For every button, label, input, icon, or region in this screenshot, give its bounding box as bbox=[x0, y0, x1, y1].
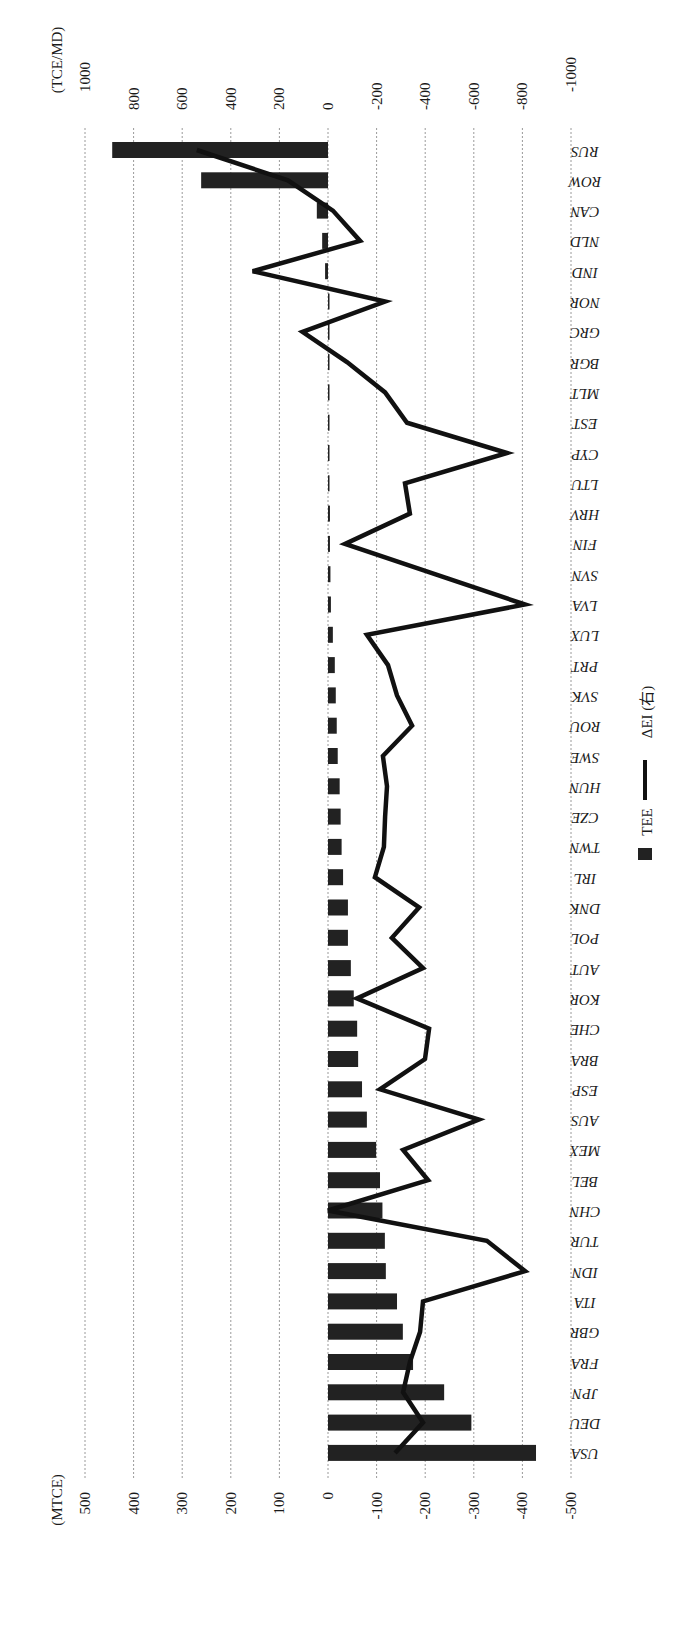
category-label: EST bbox=[571, 416, 599, 432]
tee-bar bbox=[328, 1324, 403, 1340]
tee-bar bbox=[328, 1445, 536, 1461]
category-label: CYP bbox=[571, 447, 599, 463]
tee-bar bbox=[328, 1021, 357, 1037]
tee-bar bbox=[328, 657, 335, 673]
category-label: RUS bbox=[571, 144, 600, 160]
chart-canvas: 5004003002001000-100-200-300-400-500 100… bbox=[0, 0, 689, 1629]
category-label: ROU bbox=[568, 719, 601, 735]
tee-bar bbox=[325, 263, 328, 279]
category-label: BRA bbox=[570, 1053, 598, 1069]
left-axis-tick-label: 500 bbox=[77, 1492, 93, 1515]
right-axis-tick-label: 800 bbox=[126, 88, 142, 111]
category-label: NOR bbox=[570, 295, 601, 311]
right-axis-tick-label: 1000 bbox=[77, 62, 93, 92]
category-label: PRT bbox=[570, 659, 599, 675]
dei-line bbox=[197, 150, 525, 1453]
tee-bars bbox=[112, 142, 536, 1461]
left-axis-tick-label: 300 bbox=[174, 1492, 190, 1515]
left-axis-tick-label: 400 bbox=[126, 1492, 142, 1515]
legend-dei-label: ΔEI (右) bbox=[639, 686, 656, 739]
right-axis-ticks: 10008006004002000-200-400-600-800-1000 bbox=[77, 57, 579, 110]
legend-tee-label: TEE bbox=[639, 808, 655, 836]
category-label: AUS bbox=[571, 1113, 600, 1129]
category-label: ESP bbox=[572, 1083, 599, 1099]
category-label: GBR bbox=[570, 1325, 599, 1341]
tee-bar bbox=[328, 778, 340, 794]
category-label: KOR bbox=[570, 992, 601, 1008]
left-axis-unit: (MTCE) bbox=[49, 1474, 66, 1526]
category-label: CAN bbox=[569, 204, 599, 220]
tee-bar bbox=[328, 960, 351, 976]
right-axis-tick-label: 400 bbox=[223, 88, 239, 111]
category-label: USA bbox=[570, 1446, 598, 1462]
left-axis-tick-label: -400 bbox=[514, 1492, 530, 1520]
category-label: ROW bbox=[567, 174, 602, 190]
tee-bar bbox=[328, 930, 348, 946]
tee-bar bbox=[328, 1354, 413, 1370]
right-axis-tick-label: -1000 bbox=[563, 57, 579, 92]
category-label: AUT bbox=[569, 962, 600, 978]
tee-bar bbox=[328, 475, 330, 491]
category-label: TWN bbox=[569, 840, 601, 856]
category-labels: RUSROWCANNLDINDNORGRCBGRMLTESTCYPLTUHRVF… bbox=[567, 144, 602, 1463]
category-label: BGR bbox=[570, 356, 599, 372]
left-axis-ticks: 5004003002001000-100-200-300-400-500 bbox=[77, 1492, 579, 1520]
tee-bar bbox=[328, 1172, 380, 1188]
category-label: MLT bbox=[569, 386, 601, 402]
tee-bar bbox=[328, 1293, 397, 1309]
tee-bar bbox=[328, 809, 341, 825]
category-label: LTU bbox=[570, 477, 599, 493]
dei-polyline bbox=[197, 150, 525, 1453]
tee-bar bbox=[328, 1142, 376, 1158]
category-label: SWE bbox=[570, 750, 599, 766]
category-label: CHN bbox=[569, 1204, 601, 1220]
tee-bar bbox=[328, 748, 338, 764]
legend-tee-swatch bbox=[638, 848, 652, 860]
category-label: JPN bbox=[571, 1386, 598, 1402]
category-label: ITA bbox=[573, 1295, 596, 1311]
category-label: BEL bbox=[572, 1174, 599, 1190]
category-label: HRV bbox=[569, 507, 601, 523]
tee-bar bbox=[328, 506, 330, 522]
category-label: HUN bbox=[568, 780, 602, 796]
right-axis-unit: (TCE/MD) bbox=[49, 27, 66, 94]
category-label: MEX bbox=[569, 1143, 602, 1159]
category-label: LVA bbox=[572, 598, 599, 614]
tee-bar bbox=[328, 900, 348, 916]
category-label: CHE bbox=[570, 1022, 600, 1038]
right-axis-tick-label: -800 bbox=[514, 83, 530, 111]
tee-bar bbox=[328, 839, 342, 855]
tee-bar bbox=[328, 1263, 386, 1279]
tee-bar bbox=[328, 687, 336, 703]
category-label: IDN bbox=[571, 1265, 599, 1281]
right-axis-tick-label: 200 bbox=[271, 88, 287, 111]
legend: TEE ΔEI (右) bbox=[638, 686, 656, 860]
category-label: DNK bbox=[569, 901, 602, 917]
category-label: SVN bbox=[571, 568, 599, 584]
left-axis-tick-label: -100 bbox=[369, 1492, 385, 1520]
tee-bar bbox=[328, 1384, 444, 1400]
right-axis-tick-label: -200 bbox=[369, 83, 385, 111]
tee-bar bbox=[328, 1415, 471, 1431]
left-axis-tick-label: -200 bbox=[417, 1492, 433, 1520]
left-axis-tick-label: -500 bbox=[563, 1492, 579, 1520]
left-axis-tick-label: -300 bbox=[466, 1492, 482, 1520]
tee-bar bbox=[328, 415, 330, 431]
tee-bar bbox=[328, 597, 331, 613]
tee-bar bbox=[328, 869, 343, 885]
tee-bar bbox=[328, 1233, 385, 1249]
tee-bar bbox=[328, 445, 330, 461]
tee-bar bbox=[328, 536, 330, 552]
category-label: FRA bbox=[570, 1356, 599, 1372]
category-label: TUR bbox=[571, 1234, 599, 1250]
category-label: IND bbox=[572, 265, 599, 281]
category-label: NLD bbox=[570, 234, 600, 250]
tee-bar bbox=[328, 1112, 367, 1128]
tee-bar bbox=[328, 566, 330, 582]
tee-bar bbox=[328, 718, 337, 734]
left-axis-tick-label: 0 bbox=[320, 1492, 336, 1500]
right-axis-tick-label: -600 bbox=[466, 83, 482, 111]
tee-bar bbox=[328, 294, 330, 310]
tee-bar bbox=[328, 384, 330, 400]
category-label: GRC bbox=[569, 325, 600, 341]
